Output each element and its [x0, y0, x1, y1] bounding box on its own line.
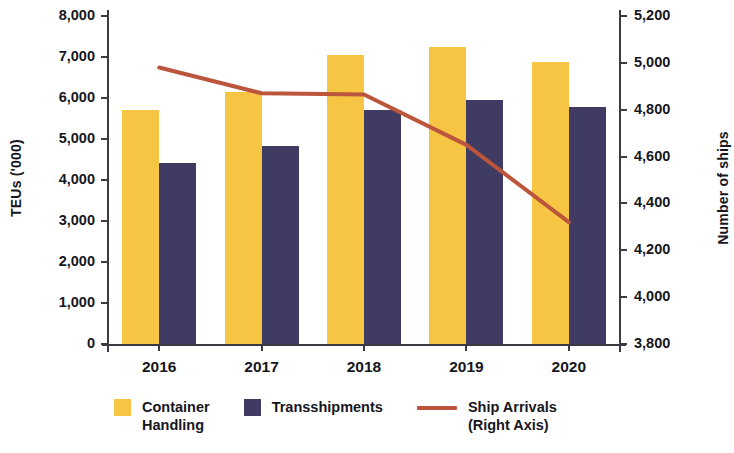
y-axis-left-tick-label: 0	[87, 336, 95, 351]
y-axis-right-title: Number of ships	[715, 113, 731, 263]
y-axis-left-tick	[101, 97, 108, 99]
x-axis-label-2017: 2017	[217, 358, 307, 376]
x-axis-label-2019: 2019	[421, 358, 511, 376]
y-axis-right-tick-label: 4,400	[634, 195, 670, 210]
y-axis-left-tick-label: 2,000	[59, 254, 95, 269]
ship-arrivals-polyline	[159, 68, 569, 223]
legend-item-transshipments[interactable]: Transshipments	[244, 398, 383, 416]
y-axis-right-tick-label: 5,000	[634, 55, 670, 70]
y-axis-left-title: TEUs ('000)	[8, 118, 24, 238]
y-axis-left-tick	[101, 138, 108, 140]
y-axis-left-tick	[101, 261, 108, 263]
chart-container: TEUs ('000) Number of ships 01,0002,0003…	[0, 0, 734, 453]
chart-legend: Container HandlingTransshipmentsShip Arr…	[108, 398, 668, 434]
legend-label-container-handling: Container Handling	[142, 398, 210, 434]
y-axis-right-tick-label: 3,800	[634, 336, 670, 351]
x-axis-tick	[568, 344, 570, 351]
y-axis-left-tick	[101, 56, 108, 58]
y-axis-right-tick	[620, 202, 627, 204]
legend-item-ship-arrivals[interactable]: Ship Arrivals (Right Axis)	[417, 398, 557, 434]
y-axis-left-tick	[101, 302, 108, 304]
y-axis-right-tick-label: 4,000	[634, 289, 670, 304]
x-axis-tick	[261, 344, 263, 351]
x-axis-label-2020: 2020	[524, 358, 614, 376]
y-axis-left-tick	[101, 15, 108, 17]
legend-swatch-icon-container-handling	[114, 399, 131, 416]
y-axis-right-tick	[620, 15, 627, 17]
y-axis-left-tick-label: 6,000	[59, 90, 95, 105]
x-axis-label-2018: 2018	[319, 358, 409, 376]
y-axis-left-tick-label: 7,000	[59, 49, 95, 64]
y-axis-right-tick	[620, 296, 627, 298]
legend-label-ship-arrivals: Ship Arrivals (Right Axis)	[468, 398, 557, 434]
y-axis-right-tick-label: 4,600	[634, 149, 670, 164]
y-axis-left-tick-label: 1,000	[59, 295, 95, 310]
y-axis-left-tick	[101, 220, 108, 222]
y-axis-left-tick	[101, 179, 108, 181]
y-axis-left-tick-label: 3,000	[59, 213, 95, 228]
y-axis-right-tick-label: 4,800	[634, 102, 670, 117]
y-axis-left-tick-label: 4,000	[59, 172, 95, 187]
y-axis-right-tick	[620, 343, 627, 345]
y-axis-left-tick-label: 5,000	[59, 131, 95, 146]
ship-arrivals-line	[108, 16, 620, 344]
legend-item-container-handling[interactable]: Container Handling	[114, 398, 210, 434]
y-axis-right-tick-label: 4,200	[634, 242, 670, 257]
x-axis-tick	[465, 344, 467, 351]
y-axis-right-tick	[620, 109, 627, 111]
legend-swatch-icon-transshipments	[244, 399, 261, 416]
y-axis-right-tick	[620, 62, 627, 64]
y-axis-left-tick	[101, 343, 108, 345]
x-axis-tick	[158, 344, 160, 351]
y-axis-right-tick	[620, 156, 627, 158]
y-axis-left-tick-label: 8,000	[59, 8, 95, 23]
plot-area: 01,0002,0003,0004,0005,0006,0007,0008,00…	[108, 16, 620, 344]
legend-line-icon-ship-arrivals	[417, 406, 457, 410]
x-axis-label-2016: 2016	[114, 358, 204, 376]
y-axis-right-tick-label: 5,200	[634, 8, 670, 23]
x-axis-tick	[363, 344, 365, 351]
y-axis-right-tick	[620, 249, 627, 251]
legend-label-transshipments: Transshipments	[272, 398, 383, 416]
